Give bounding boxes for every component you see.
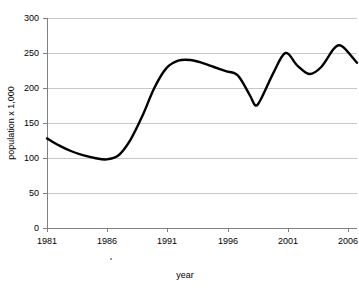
y-tick-label-200: 200 [24,83,39,93]
y-tick-label-300: 300 [24,13,39,23]
x-axis-title: year [176,270,194,280]
stray-speck [110,258,112,260]
y-tick-label-150: 150 [24,118,39,128]
x-tick-label-1991: 1991 [157,236,177,246]
x-tick-label-1986: 1986 [97,236,117,246]
x-tick-label-2006: 2006 [338,236,358,246]
x-axis-ticks [47,228,348,232]
x-tick-label-2001: 2001 [278,236,298,246]
gridlines [47,18,357,193]
y-tick-label-50: 50 [29,188,39,198]
y-tick-label-250: 250 [24,48,39,58]
y-axis-tick-labels: 300 250 200 150 100 50 0 [24,13,39,233]
x-axis-tick-labels: 1981 1986 1991 1996 2001 2006 [37,236,358,246]
y-tick-label-100: 100 [24,153,39,163]
y-tick-label-0: 0 [34,223,39,233]
y-axis-ticks [43,18,47,228]
line-chart: 300 250 200 150 100 50 0 1981 1986 1991 … [0,0,359,291]
series-line-population [47,45,357,159]
x-tick-label-1996: 1996 [218,236,238,246]
x-tick-label-1981: 1981 [37,236,57,246]
chart-plot-area: 300 250 200 150 100 50 0 1981 1986 1991 … [0,0,359,291]
y-axis-title: population x 1,000 [6,86,16,160]
